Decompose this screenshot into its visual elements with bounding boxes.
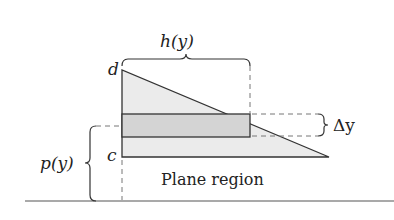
right-brace <box>318 114 328 136</box>
region-label: Plane region <box>161 170 264 189</box>
c-label: c <box>107 145 117 165</box>
d-label: d <box>108 59 119 79</box>
dy-label: Δy <box>333 115 355 135</box>
h-label: h(y) <box>160 31 194 51</box>
plane-region-diagram: h(y) d c p(y) Δy Plane region <box>0 0 394 220</box>
left-brace <box>85 126 96 201</box>
p-label: p(y) <box>40 153 74 173</box>
top-brace <box>122 54 250 66</box>
horizontal-strip <box>122 114 250 137</box>
